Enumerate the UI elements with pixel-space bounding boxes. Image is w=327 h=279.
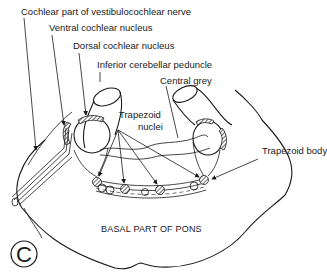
right-dorsal-cochlear-nucleus — [196, 119, 214, 125]
pons-cross-section-diagram: Cochlear part of vestibulocochlear nerve… — [0, 0, 327, 279]
trapezoid-nucleus-2 — [121, 185, 130, 194]
label-trapezoid-nuclei-2: nuclei — [138, 121, 163, 132]
label-dorsal-cochlear-nucleus: Dorsal cochlear nucleus — [73, 40, 175, 51]
label-central-grey: Central grey — [160, 75, 212, 86]
trapezoid-nucleus-3 — [156, 186, 165, 195]
label-basal-part-of-pons: BASAL PART OF PONS — [101, 224, 202, 234]
label-ventral-cochlear-nucleus: Ventral cochlear nucleus — [49, 22, 153, 33]
label-inferior-cerebellar-peduncle: Inferior cerebellar peduncle — [97, 59, 212, 70]
right-ventral-cochlear-nucleus — [219, 128, 226, 150]
trapezoid-nucleus-1 — [93, 178, 102, 187]
label-trapezoid-body: Trapezoid body — [262, 145, 327, 156]
right-dorsal-region-ring — [193, 121, 223, 155]
trapezoid-nucleus-4 — [200, 176, 209, 185]
panel-letter-badge: C — [11, 241, 37, 267]
panel-letter: C — [16, 242, 32, 267]
label-trapezoid-nuclei-1: Trapezoid — [119, 109, 161, 120]
label-cochlear-nerve: Cochlear part of vestibulocochlear nerve — [21, 6, 191, 17]
diagram-canvas: Cochlear part of vestibulocochlear nerve… — [0, 0, 327, 279]
left-dorsal-cochlear-nucleus — [78, 116, 104, 124]
right-inferior-cerebellar-peduncle — [170, 82, 232, 125]
